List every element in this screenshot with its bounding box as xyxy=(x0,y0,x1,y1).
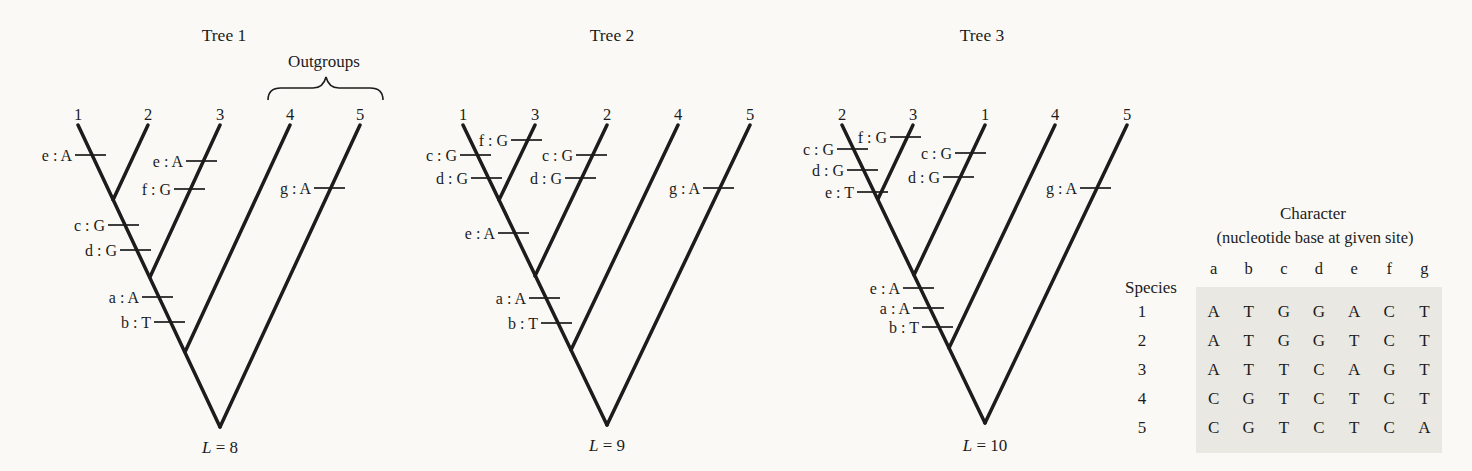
length-value: = 8 xyxy=(211,438,238,457)
species-number-4: 4 xyxy=(1118,385,1166,414)
base-cell-4-d: C xyxy=(1301,385,1336,414)
outgroups-label: Outgroups xyxy=(254,52,394,72)
character-change-label: c : G xyxy=(921,145,953,162)
species-number-3: 3 xyxy=(1118,355,1166,384)
tree-1-tip-3: 3 xyxy=(216,105,224,124)
character-change-label: d : G xyxy=(908,169,940,186)
base-cell-1-a: A xyxy=(1196,297,1231,326)
character-change-label: g : A xyxy=(1046,180,1078,198)
character-change-label: b : T xyxy=(889,319,919,336)
tree-2-tip-2: 2 xyxy=(603,105,611,124)
branch-line xyxy=(607,125,750,425)
length-variable: L xyxy=(963,436,972,455)
tree-2-diagram: f : Gc : Gd : Gc : Gd : Ge : Aa : Ab : T… xyxy=(426,105,754,425)
base-cell-5-f: C xyxy=(1372,414,1407,443)
character-change-label: a : A xyxy=(109,289,140,306)
base-cell-2-a: A xyxy=(1196,326,1231,355)
character-change-label: d : G xyxy=(812,162,844,179)
tree-2-tip-1: 1 xyxy=(459,105,467,124)
character-change-label: b : T xyxy=(508,315,538,332)
base-cell-5-c: T xyxy=(1266,414,1301,443)
tree-2-tip-4: 4 xyxy=(674,105,682,124)
base-cell-1-e: A xyxy=(1337,297,1372,326)
base-cell-5-b: G xyxy=(1231,414,1266,443)
character-change-label: a : A xyxy=(496,290,527,307)
base-cell-4-f: C xyxy=(1372,385,1407,414)
base-cell-4-e: T xyxy=(1337,385,1372,414)
character-change-label: d : G xyxy=(436,170,468,187)
base-cell-3-d: C xyxy=(1301,355,1336,384)
phylogeny-figure: e : Ae : Af : Gc : Gd : Ga : Ab : Tg : A… xyxy=(0,0,1472,471)
tree-2-tip-5: 5 xyxy=(746,105,754,124)
character-change-label: c : G xyxy=(803,141,835,158)
outgroups-brace xyxy=(268,77,383,100)
tree-2-length-label: L = 9 xyxy=(547,435,667,457)
tree-1-tip-2: 2 xyxy=(144,105,152,124)
column-header-e: e xyxy=(1337,258,1372,280)
character-change-label: e : A xyxy=(42,147,73,164)
base-cell-3-c: T xyxy=(1266,355,1301,384)
base-cell-2-b: T xyxy=(1231,326,1266,355)
species-number-1: 1 xyxy=(1118,297,1166,326)
column-header-d: d xyxy=(1301,258,1336,280)
character-change-label: f : G xyxy=(858,129,888,146)
length-value: = 9 xyxy=(598,436,625,455)
base-cell-1-g: T xyxy=(1407,297,1442,326)
base-cell-5-e: T xyxy=(1337,414,1372,443)
tree-3-diagram: f : Gc : Gd : Ge : Tc : Gd : Ge : Aa : A… xyxy=(803,105,1131,423)
table-column-headers: abcdefg xyxy=(1196,258,1442,280)
character-matrix: ATGGACTATGGTCTATTCAGTCGTCTCTCGTCTCA xyxy=(1196,287,1442,453)
tree-3-tip-2: 2 xyxy=(838,105,846,124)
character-change-label: b : T xyxy=(121,314,151,331)
base-cell-4-a: C xyxy=(1196,385,1231,414)
length-value: = 10 xyxy=(972,436,1007,455)
base-cell-4-c: T xyxy=(1266,385,1301,414)
tree-1-title: Tree 1 xyxy=(154,25,294,45)
column-header-f: f xyxy=(1372,258,1407,280)
column-header-a: a xyxy=(1196,258,1231,280)
character-change-label: d : G xyxy=(85,242,117,259)
base-cell-2-f: C xyxy=(1372,326,1407,355)
character-change-label: e : A xyxy=(870,280,901,297)
character-change-label: c : G xyxy=(426,147,458,164)
tree-3-title: Tree 3 xyxy=(912,25,1052,45)
branch-line xyxy=(150,125,220,277)
tree-3-tip-1: 1 xyxy=(981,105,989,124)
tree-1-length-label: L = 8 xyxy=(160,437,280,459)
base-cell-1-b: T xyxy=(1231,297,1266,326)
character-change-label: g : A xyxy=(669,180,701,198)
base-cell-4-g: T xyxy=(1407,385,1442,414)
base-cell-2-c: G xyxy=(1266,326,1301,355)
tree-3-tip-3: 3 xyxy=(909,105,917,124)
tree-3-tip-4: 4 xyxy=(1051,105,1059,124)
character-change-label: c : G xyxy=(74,217,106,234)
species-number-5: 5 xyxy=(1118,414,1166,443)
base-cell-2-d: G xyxy=(1301,326,1336,355)
column-header-c: c xyxy=(1266,258,1301,280)
character-change-label: a : A xyxy=(880,300,911,317)
base-cell-3-b: T xyxy=(1231,355,1266,384)
character-change-label: f : G xyxy=(479,132,509,149)
base-cell-1-f: C xyxy=(1372,297,1407,326)
base-cell-3-a: A xyxy=(1196,355,1231,384)
base-cell-1-d: G xyxy=(1301,297,1336,326)
branch-line xyxy=(949,125,1055,348)
tree-1-diagram: e : Ae : Af : Gc : Gd : Ga : Ab : Tg : A… xyxy=(42,105,364,427)
character-change-label: f : G xyxy=(142,181,172,198)
table-title: Character xyxy=(1233,204,1393,224)
character-change-label: e : T xyxy=(825,184,854,201)
character-change-label: c : G xyxy=(542,147,574,164)
base-cell-5-d: C xyxy=(1301,414,1336,443)
column-header-g: g xyxy=(1407,258,1442,280)
base-cell-3-g: T xyxy=(1407,355,1442,384)
base-cell-3-e: A xyxy=(1337,355,1372,384)
tree-1-tip-5: 5 xyxy=(356,105,364,124)
column-header-b: b xyxy=(1231,258,1266,280)
table-subtitle: (nucleotide base at given site) xyxy=(1165,228,1465,248)
character-change-label: e : A xyxy=(465,225,496,242)
branch-line xyxy=(185,125,290,352)
branch-line xyxy=(571,125,678,350)
base-cell-3-f: G xyxy=(1372,355,1407,384)
tree-3-tip-5: 5 xyxy=(1123,105,1131,124)
character-change-label: d : G xyxy=(530,170,562,187)
